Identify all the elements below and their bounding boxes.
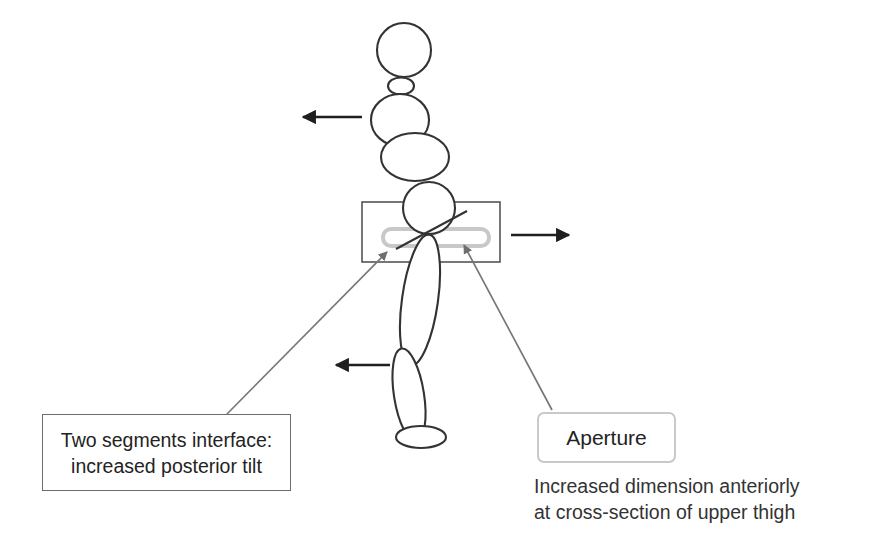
neck-segment — [388, 78, 414, 95]
aperture-caption-line-2: at cross-section of upper thigh — [534, 499, 864, 525]
interface-leader-line — [227, 252, 387, 414]
aperture-caption-line-1: Increased dimension anteriorly — [534, 473, 864, 499]
abdomen-segment — [381, 133, 449, 181]
interface-callout-box: Two segments interface: increased poster… — [42, 414, 291, 491]
interface-callout-line-2: increased posterior tilt — [71, 453, 262, 479]
interface-callout-line-1: Two segments interface: — [61, 427, 272, 453]
head-segment — [377, 23, 431, 77]
foot-segment — [396, 426, 446, 448]
aperture-callout-box: Aperture — [537, 412, 676, 463]
aperture-callout-label: Aperture — [566, 426, 647, 450]
aperture-leader-line — [464, 245, 552, 410]
aperture-caption: Increased dimension anteriorly at cross-… — [534, 473, 864, 525]
diagram-canvas: Two segments interface: increased poster… — [0, 0, 874, 551]
pelvis-segment — [403, 182, 455, 234]
